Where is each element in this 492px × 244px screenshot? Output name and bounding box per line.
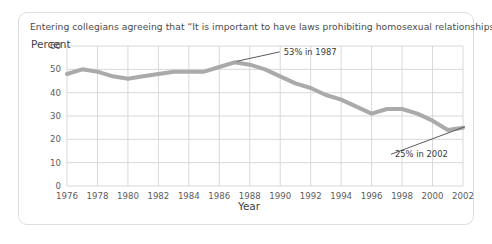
x-tick-label: 1982	[147, 191, 169, 201]
x-tick-label: 1998	[391, 191, 413, 201]
y-tick-label: 30	[50, 111, 61, 121]
x-tick-label: 1992	[300, 191, 322, 201]
y-tick-label: 40	[50, 88, 61, 98]
grid-lines	[67, 46, 463, 186]
x-axis-title: Year	[237, 200, 261, 212]
y-tick-label: 50	[50, 64, 61, 74]
chart-plot-area: 0102030405060 19761978198019821984198619…	[19, 13, 475, 226]
y-tick-label: 10	[50, 158, 61, 168]
x-tick-label: 1986	[208, 191, 230, 201]
annotation-label: 25% in 2002	[395, 149, 448, 159]
figure-card: Entering collegians agreeing that “It is…	[18, 12, 474, 225]
y-axis-title: Percent	[31, 38, 71, 50]
annotation-leader-line	[237, 52, 280, 61]
x-tick-label: 1996	[361, 191, 383, 201]
x-tick-label: 1978	[87, 191, 109, 201]
x-tick-label: 1990	[269, 191, 291, 201]
x-tick-label: 2002	[452, 191, 474, 201]
x-tick-label: 2000	[422, 191, 444, 201]
x-tick-label: 1994	[330, 191, 352, 201]
data-line-series	[67, 62, 463, 130]
x-tick-label: 1976	[56, 191, 78, 201]
y-axis-tick-labels: 0102030405060	[50, 41, 61, 191]
x-tick-label: 1984	[178, 191, 200, 201]
annotation-label: 53% in 1987	[284, 47, 337, 57]
x-axis-tick-labels: 1976197819801982198419861988199019921994…	[56, 191, 474, 201]
line-chart: 0102030405060 19761978198019821984198619…	[19, 13, 475, 226]
data-line	[67, 62, 463, 130]
x-tick-label: 1980	[117, 191, 139, 201]
y-tick-label: 0	[56, 181, 61, 191]
y-tick-label: 20	[50, 134, 61, 144]
